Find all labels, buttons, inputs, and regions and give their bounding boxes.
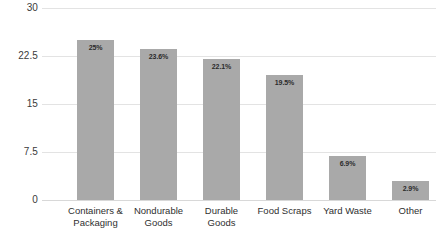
y-tick-label-15: 15 [4,99,38,109]
y-tick-label-0: 0 [4,195,38,205]
bar-other[interactable]: 2.9% [392,181,429,200]
bar-yard-waste[interactable]: 6.9% [329,156,366,200]
bar-value-label: 19.5% [266,79,303,87]
y-tick-label-7-5: 7.5 [4,147,38,157]
y-axis: 30 22.5 15 7.5 0 [0,0,38,243]
bar-value-label: 6.9% [329,160,366,168]
bar-food-scraps[interactable]: 19.5% [266,75,303,200]
bar-value-label: 25% [77,44,114,52]
x-tick-label-durable-goods: Durable Goods [190,205,253,228]
bar-value-label: 2.9% [392,185,429,193]
x-tick-label-containers-packaging: Containers & Packaging [64,205,127,228]
bar-nondurable-goods[interactable]: 23.6% [140,49,177,200]
bar-chart: 30 22.5 15 7.5 0 25% 23.6% 22.1% 19.5% [0,0,439,243]
y-tick-label-30: 30 [4,3,38,13]
bar-value-label: 22.1% [203,63,240,71]
x-tick-label-other: Other [379,205,439,217]
x-tick-label-food-scraps: Food Scraps [253,205,316,217]
bar-durable-goods[interactable]: 22.1% [203,59,240,200]
x-tick-label-nondurable-goods: Nondurable Goods [127,205,190,228]
y-tick-label-22-5: 22.5 [4,51,38,61]
bar-containers-packaging[interactable]: 25% [77,40,114,200]
x-axis: Containers & Packaging Nondurable Goods … [42,205,439,243]
x-tick-label-yard-waste: Yard Waste [316,205,379,217]
bar-value-label: 23.6% [140,53,177,61]
